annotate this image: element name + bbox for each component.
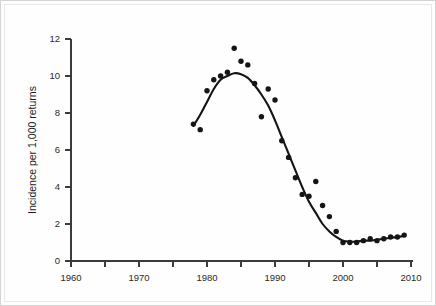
data-point	[245, 62, 250, 67]
data-point	[225, 70, 230, 75]
data-point	[191, 121, 196, 126]
data-point	[368, 236, 373, 241]
data-point	[402, 232, 407, 237]
y-tick-label: 10	[49, 70, 60, 81]
y-tick-label: 6	[55, 144, 60, 155]
y-tick-label: 4	[55, 181, 60, 192]
y-axis-title: Incidence per 1,000 returns	[26, 86, 38, 214]
x-tick-label: 1980	[196, 272, 217, 283]
data-point	[340, 240, 345, 245]
data-point	[313, 179, 318, 184]
x-axis: 196019701980199020002010	[60, 261, 421, 283]
data-point	[388, 234, 393, 239]
trend-line	[193, 73, 404, 242]
y-tick-label: 12	[49, 33, 60, 44]
y-tick-label: 2	[55, 218, 60, 229]
y-axis-tick-labels: 024681012	[49, 33, 60, 266]
x-tick-label: 1990	[264, 272, 285, 283]
data-point	[286, 155, 291, 160]
x-tick-label: 2000	[332, 272, 353, 283]
data-point	[198, 127, 203, 132]
x-tick-label: 1960	[60, 272, 81, 283]
data-point	[381, 236, 386, 241]
data-point	[334, 229, 339, 234]
data-point	[232, 46, 237, 51]
data-point	[320, 203, 325, 208]
data-points	[191, 46, 407, 246]
data-point	[211, 77, 216, 82]
data-point	[327, 214, 332, 219]
x-axis-minor-ticks	[105, 261, 377, 267]
data-point	[252, 81, 257, 86]
y-tick-label: 8	[55, 107, 60, 118]
incidence-scatter-chart: 024681012 196019701980199020002010 Incid…	[1, 1, 436, 306]
y-tick-label: 0	[55, 255, 60, 266]
data-point	[218, 73, 223, 78]
data-point	[374, 238, 379, 243]
x-tick-label: 2010	[400, 272, 421, 283]
data-point	[204, 88, 209, 93]
data-point	[300, 192, 305, 197]
y-axis: 024681012	[49, 33, 71, 266]
x-axis-tick-labels: 196019701980199020002010	[60, 272, 421, 283]
data-point	[259, 114, 264, 119]
y-axis-ticks	[65, 39, 71, 261]
data-point	[306, 194, 311, 199]
data-point	[266, 86, 271, 91]
data-point	[354, 240, 359, 245]
data-point	[238, 59, 243, 64]
data-point	[347, 240, 352, 245]
data-point	[293, 175, 298, 180]
data-point	[395, 234, 400, 239]
chart-figure: 024681012 196019701980199020002010 Incid…	[0, 0, 436, 306]
data-point	[272, 97, 277, 102]
x-tick-label: 1970	[128, 272, 149, 283]
data-point	[279, 138, 284, 143]
data-point	[361, 238, 366, 243]
